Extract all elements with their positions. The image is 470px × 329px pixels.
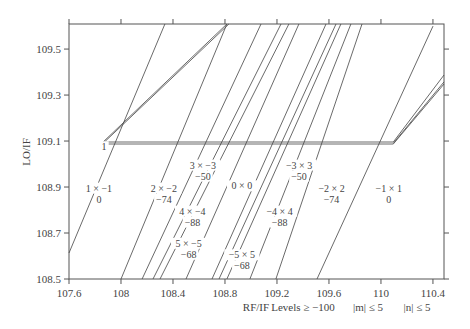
series-lines	[69, 24, 444, 279]
series-line--1x1	[317, 26, 433, 279]
series-line-l8	[219, 24, 336, 279]
annotation-ann-3x-3: 3 × −3	[190, 160, 216, 171]
x-tick-label: 107.6	[57, 287, 82, 299]
annotation-ann-5x-5: 5 × −5	[175, 238, 201, 249]
annotation-ann--3x3: −50	[291, 171, 307, 182]
annotation-ann--4x4: −4 × 4	[266, 206, 292, 217]
series-line-right-fan-c	[393, 84, 444, 144]
spur-chart: 107.6108108.4108.8109.2109.6110110.4 108…	[0, 0, 470, 329]
annotation-ann--3x3: −3 × 3	[286, 160, 312, 171]
annotation-ann--2x2: −74	[324, 194, 340, 205]
annotation-ann-4x-4: −88	[185, 217, 201, 228]
y-tick-label: 108.9	[36, 181, 61, 193]
y-tick-label: 108.7	[36, 227, 61, 239]
y-axis-label: LO/IF	[20, 138, 32, 166]
annotation-ann-2x-2: 2 × −2	[151, 183, 177, 194]
footer-note-m: |m| ≤ 5	[353, 301, 383, 313]
x-tick-label: 109.6	[317, 287, 342, 299]
annotation-ann-5x-5: −68	[181, 249, 197, 260]
series-line-right-fan-b	[393, 82, 444, 143]
series-line-l11	[276, 24, 362, 279]
x-tick-label: 110	[373, 287, 390, 299]
series-line-left-fan-b	[103, 24, 229, 143]
plot-frame	[69, 24, 444, 279]
annotation-ann-1x-1: 0	[96, 194, 101, 205]
annotation-ann--1x1: −1 × 1	[376, 183, 402, 194]
annotation-ann--4x4: −88	[272, 217, 288, 228]
annotation-ann-1x-1: 1 × −1	[86, 183, 112, 194]
x-tick-label: 108	[113, 287, 130, 299]
y-tick-label: 109.1	[36, 135, 61, 147]
series-line-l9	[227, 24, 341, 279]
x-tick-label: 108.4	[161, 287, 186, 299]
x-tick-label: 110.4	[421, 287, 446, 299]
annotation-ann-2x-2: −74	[156, 194, 172, 205]
annotation-ann--2x2: −2 × 2	[318, 183, 344, 194]
x-axis-label: RF/IF	[243, 301, 269, 313]
annotation-ann--1x1: 0	[386, 194, 391, 205]
y-tick-label: 109.5	[36, 43, 61, 55]
annotation-ann--5x5: −5 × 5	[229, 249, 255, 260]
series-line-right-fan-a	[393, 75, 444, 142]
annotation-ann--5x5: −68	[234, 260, 250, 271]
footer-note-n: |n| ≤ 5	[404, 301, 431, 313]
annotations: 1 × −102 × −2−743 × −3−504 × −4−885 × −5…	[81, 141, 406, 271]
y-tick-label: 108.5	[36, 273, 61, 285]
series-line-l7	[212, 24, 326, 279]
annotation-ann-4x-4: 4 × −4	[179, 206, 205, 217]
annotation-ann-1: 1	[102, 141, 107, 152]
x-tick-label: 109.2	[265, 287, 290, 299]
series-line-l10	[250, 24, 351, 279]
annotation-ann-3x-3: −50	[195, 171, 211, 182]
x-tick-label: 108.8	[213, 287, 238, 299]
series-line-left-fan-a	[103, 24, 227, 142]
annotation-ann-0x0: 0 × 0	[232, 180, 253, 191]
series-line-1x-1	[69, 24, 165, 253]
footer-note-levels: Levels ≥ −100	[271, 301, 335, 313]
y-tick-label: 109.3	[36, 89, 61, 101]
